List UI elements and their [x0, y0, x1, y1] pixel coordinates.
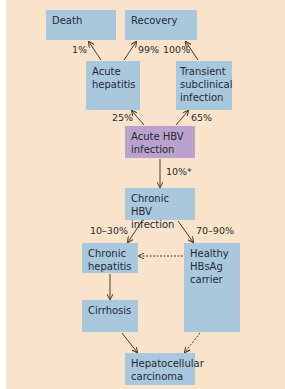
node-healthy-hbsag-carrier: Healthy HBsAg carrier: [184, 243, 240, 332]
node-recovery-label: Recovery: [131, 14, 191, 27]
arrow-cirrhosis-to-hcc: [122, 333, 137, 352]
node-chronic-hepatitis: Chronic hepatitis: [82, 243, 138, 273]
edge-label-99pct: 99%: [138, 44, 159, 55]
arrow-acute-hbv-to-transient: [176, 111, 188, 125]
node-chronic-hbv-infection: Chronic HBV infection: [125, 188, 195, 220]
node-label-line: Acute: [92, 65, 134, 78]
arrow-acute-hepatitis-to-death: [89, 42, 101, 60]
node-label-line: subclinical: [180, 78, 226, 91]
node-label-line: carcinoma: [131, 370, 189, 383]
edge-label-25pct: 25%: [112, 112, 133, 123]
node-label-line: Transient: [180, 65, 226, 78]
node-label-line: HBsAg: [190, 260, 234, 273]
node-label-line: Chronic HBV: [131, 192, 189, 218]
edge-label-1pct: 1%: [72, 44, 87, 55]
node-label-line: Chronic: [88, 247, 132, 260]
node-label-line: infection: [131, 143, 189, 156]
node-label-line: Hepatocellular: [131, 357, 189, 370]
arrow-carrier-to-hcc: [185, 333, 200, 352]
node-label-line: carrier: [190, 273, 234, 286]
node-label-line: Acute HBV: [131, 130, 189, 143]
arrow-acute-hbv-to-acute-hepatitis: [132, 111, 144, 125]
edge-label-10-30pct: 10–30%: [90, 225, 128, 236]
node-hepatocellular-carcinoma: Hepatocellular carcinoma: [125, 353, 195, 385]
node-label-line: infection: [180, 91, 226, 104]
edge-label-100pct: 100%: [163, 44, 190, 55]
node-label-line: Cirrhosis: [88, 304, 132, 317]
edge-label-10pct: 10%*: [166, 166, 192, 177]
edge-label-65pct: 65%: [191, 112, 212, 123]
arrow-acute-hepatitis-to-recovery: [124, 42, 136, 60]
node-transient-subclinical-infection: Transient subclinical infection: [176, 61, 232, 110]
node-label-line: Healthy: [190, 247, 234, 260]
edge-label-70-90pct: 70–90%: [196, 225, 234, 236]
node-acute-hbv-infection: Acute HBV infection: [125, 126, 195, 158]
node-label-line: hepatitis: [92, 78, 134, 91]
node-cirrhosis: Cirrhosis: [82, 300, 138, 332]
node-recovery: Recovery: [125, 10, 197, 40]
node-death: Death: [46, 10, 116, 40]
node-acute-hepatitis: Acute hepatitis: [86, 61, 140, 110]
node-death-label: Death: [52, 14, 110, 27]
node-label-line: infection: [131, 218, 189, 231]
node-label-line: hepatitis: [88, 260, 132, 273]
